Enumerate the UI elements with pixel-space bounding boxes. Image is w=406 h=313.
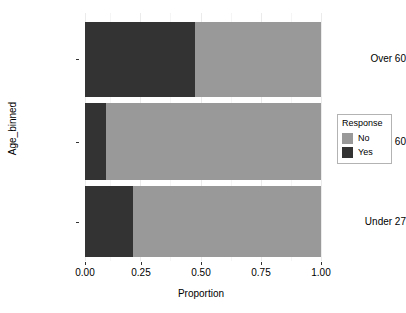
legend-key-yes-swatch — [342, 147, 353, 158]
y-tick-label-under-27: Under 27 — [338, 216, 406, 227]
legend-label-yes: Yes — [358, 147, 373, 158]
bar-segment-no — [195, 22, 321, 97]
x-tick-mark-2 — [201, 262, 202, 265]
y-tick-mark-under-27 — [76, 222, 79, 223]
legend: Response No Yes — [337, 114, 392, 164]
bar-segment-no — [133, 186, 321, 257]
x-tick-mark-1 — [141, 262, 142, 265]
x-tick-label-1: 0.25 — [121, 267, 161, 278]
bar-row — [80, 22, 322, 97]
bar-segment-yes — [85, 186, 133, 257]
y-tick-mark-27-to-60 — [76, 142, 79, 143]
bar-row — [80, 103, 322, 180]
y-axis-title: Age_binned — [7, 84, 18, 174]
x-tick-mark-4 — [321, 262, 322, 265]
y-tick-label-over-60: Over 60 — [338, 53, 406, 64]
x-tick-label-0: 0.00 — [65, 267, 105, 278]
legend-title: Response — [342, 118, 387, 129]
bar-segment-yes — [85, 103, 106, 180]
x-tick-label-2: 0.50 — [181, 267, 221, 278]
x-tick-label-4: 1.00 — [301, 267, 341, 278]
legend-label-no: No — [358, 133, 370, 144]
x-tick-mark-3 — [261, 262, 262, 265]
plot-panel — [80, 13, 322, 261]
stacked-bar-chart: Age_binned Over 60 27 to 60 Under 27 — [0, 0, 406, 313]
legend-item-yes[interactable]: Yes — [342, 145, 387, 159]
bar-segment-yes — [85, 22, 195, 97]
legend-key-no-swatch — [342, 133, 353, 144]
legend-item-no[interactable]: No — [342, 131, 387, 145]
bar-row — [80, 186, 322, 257]
y-tick-mark-over-60 — [76, 59, 79, 60]
x-tick-mark-0 — [85, 262, 86, 265]
bar-segment-no — [106, 103, 321, 180]
x-tick-label-3: 0.75 — [241, 267, 281, 278]
x-axis-title: Proportion — [80, 288, 322, 299]
